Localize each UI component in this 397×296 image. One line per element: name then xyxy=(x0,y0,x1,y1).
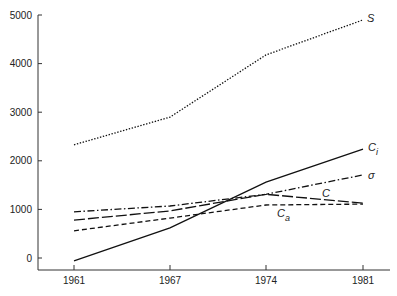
series-label-s: S xyxy=(367,12,375,24)
series-label-c: C xyxy=(322,187,330,199)
series-label-sigma: σ xyxy=(368,169,375,181)
series-line-c xyxy=(74,194,363,220)
y-tick-label: 5000 xyxy=(10,10,33,21)
y-tick-label: 0 xyxy=(26,253,32,264)
series-line-c-a xyxy=(74,204,363,231)
y-tick-label: 1000 xyxy=(10,204,33,215)
series-line-s xyxy=(74,20,363,145)
series-label-ci: Ci xyxy=(368,141,379,157)
y-axis: 010002000300040005000 xyxy=(10,10,42,271)
x-tick-label: 1967 xyxy=(159,275,182,286)
series-lines xyxy=(74,20,363,261)
series-line-sigma xyxy=(74,175,363,212)
y-tick-label: 3000 xyxy=(10,107,33,118)
series-line-c-i xyxy=(74,149,363,261)
x-tick-label: 1974 xyxy=(255,275,278,286)
x-tick-label: 1961 xyxy=(63,275,86,286)
y-tick-label: 2000 xyxy=(10,155,33,166)
y-tick-label: 4000 xyxy=(10,58,33,69)
series-labels: SCiσCCa xyxy=(277,12,379,223)
line-chart: 010002000300040005000 1961196719741981 S… xyxy=(0,0,397,296)
series-label-ca: Ca xyxy=(277,207,290,223)
x-axis: 1961196719741981 xyxy=(38,265,390,286)
x-tick-label: 1981 xyxy=(352,275,375,286)
